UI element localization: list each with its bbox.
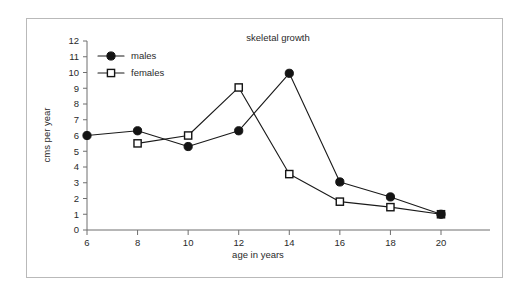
series-layer — [83, 69, 445, 218]
x-tick-label-8: 8 — [135, 237, 140, 248]
data-point-males — [437, 210, 445, 218]
legend-marker-males — [107, 52, 115, 60]
y-tick-label-4: 4 — [74, 161, 79, 172]
x-tick-label-20: 20 — [436, 237, 447, 248]
x-tick-label-6: 6 — [84, 237, 89, 248]
y-tick-label-1: 1 — [74, 209, 79, 220]
data-point-females — [387, 204, 394, 211]
data-point-males — [83, 131, 91, 139]
legend-label-males: males — [131, 50, 157, 61]
series-line-females — [138, 87, 441, 214]
data-point-females — [286, 170, 293, 177]
y-tick-label-6: 6 — [74, 130, 79, 141]
data-point-females — [336, 198, 343, 205]
y-tick-label-11: 11 — [69, 51, 79, 62]
y-tick-label-9: 9 — [74, 83, 79, 94]
data-point-males — [184, 142, 192, 150]
y-tick-label-0: 0 — [74, 224, 79, 235]
y-tick-label-3: 3 — [74, 177, 79, 188]
y-tick-label-7: 7 — [74, 114, 79, 125]
x-tick-label-14: 14 — [284, 237, 295, 248]
data-point-females — [235, 84, 242, 91]
legend-label-females: females — [131, 67, 165, 78]
data-point-males — [386, 193, 394, 201]
data-point-males — [285, 69, 293, 77]
chart-title: skeletal growth — [246, 32, 309, 43]
x-axis-ticks: 68101214161820 — [84, 230, 446, 248]
x-tick-label-18: 18 — [385, 237, 396, 248]
y-axis-title: cms per year — [41, 108, 52, 163]
chart-canvas: skeletal growth cms per year age in year… — [0, 0, 530, 294]
data-point-females — [185, 132, 192, 139]
x-axis-title: age in years — [232, 249, 284, 260]
y-tick-label-12: 12 — [68, 35, 79, 46]
y-tick-label-5: 5 — [74, 146, 79, 157]
data-point-males — [336, 178, 344, 186]
y-tick-label-10: 10 — [68, 67, 79, 78]
y-tick-label-8: 8 — [74, 98, 79, 109]
chart-legend: malesfemales — [98, 50, 165, 78]
x-tick-label-12: 12 — [233, 237, 244, 248]
data-point-females — [134, 140, 141, 147]
legend-marker-females — [107, 69, 114, 76]
x-tick-label-16: 16 — [335, 237, 346, 248]
data-point-males — [235, 127, 243, 135]
x-tick-label-10: 10 — [183, 237, 194, 248]
y-tick-label-2: 2 — [74, 193, 79, 204]
figure-container: skeletal growth cms per year age in year… — [0, 0, 530, 294]
data-point-males — [133, 127, 141, 135]
